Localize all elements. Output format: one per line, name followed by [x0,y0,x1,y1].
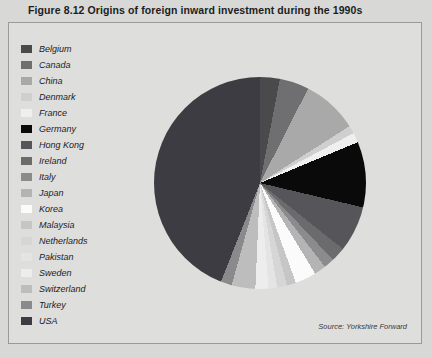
legend-swatch-icon [21,189,32,197]
legend-swatch-icon [21,205,32,213]
legend-item-label: Ireland [39,157,67,166]
legend-item: Denmark [21,89,129,105]
legend-item: Turkey [21,297,129,313]
legend-item: China [21,73,129,89]
legend-item-label: Malaysia [39,221,75,230]
legend-item-label: Japan [39,189,64,198]
legend-item-label: Germany [39,125,76,134]
legend-item-label: France [39,109,67,118]
legend-item: Malaysia [21,217,129,233]
legend-item: Belgium [21,41,129,57]
legend-item-label: Hong Kong [39,141,84,150]
legend-swatch-icon [21,93,32,101]
legend-swatch-icon [21,221,32,229]
legend-item-label: Sweden [39,269,72,278]
legend-swatch-icon [21,77,32,85]
legend-item-label: Netherlands [39,237,88,246]
legend-item: Germany [21,121,129,137]
legend-swatch-icon [21,45,32,53]
legend-swatch-icon [21,141,32,149]
legend-swatch-icon [21,253,32,261]
legend-item: Japan [21,185,129,201]
legend-item-label: Pakistan [39,253,74,262]
legend-item: Pakistan [21,249,129,265]
legend-item: Italy [21,169,129,185]
legend-item-label: Belgium [39,45,72,54]
legend-swatch-icon [21,317,32,325]
legend-item-label: China [39,77,63,86]
legend-swatch-icon [21,157,32,165]
legend-item: Switzerland [21,281,129,297]
pie-chart-slices [154,77,366,289]
legend-item: Netherlands [21,233,129,249]
legend-item: Sweden [21,265,129,281]
chart-legend: BelgiumCanadaChinaDenmarkFranceGermanyHo… [21,41,129,329]
legend-item-label: Italy [39,173,56,182]
legend-item-label: USA [39,317,58,326]
legend-item: USA [21,313,129,329]
legend-swatch-icon [21,301,32,309]
legend-item: Korea [21,201,129,217]
legend-swatch-icon [21,237,32,245]
legend-swatch-icon [21,125,32,133]
legend-item: Canada [21,57,129,73]
legend-item: Hong Kong [21,137,129,153]
legend-item-label: Turkey [39,301,66,310]
pie-chart [154,77,366,289]
legend-swatch-icon [21,61,32,69]
legend-item-label: Canada [39,61,71,70]
source-credit: Source: Yorkshire Forward [318,322,407,331]
legend-item-label: Korea [39,205,63,214]
legend-item-label: Denmark [39,93,76,102]
legend-swatch-icon [21,269,32,277]
legend-item: France [21,105,129,121]
figure-panel: BelgiumCanadaChinaDenmarkFranceGermanyHo… [8,22,422,344]
legend-swatch-icon [21,173,32,181]
legend-item-label: Switzerland [39,285,86,294]
legend-swatch-icon [21,109,32,117]
legend-swatch-icon [21,285,32,293]
page-title: Figure 8.12 Origins of foreign inward in… [28,4,362,16]
legend-item: Ireland [21,153,129,169]
